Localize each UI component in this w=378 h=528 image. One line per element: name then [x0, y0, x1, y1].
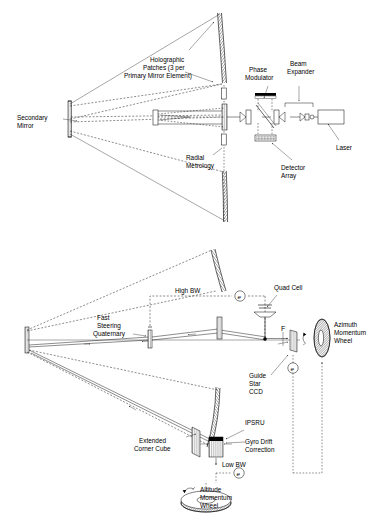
guide-star-label-line3: CCD — [249, 388, 263, 395]
secondary-mirror-label-line1: Secondary — [17, 114, 48, 122]
fast-steering-label-line3: Quaternary — [93, 330, 126, 338]
phase-modulator-label-line2: Modulator — [245, 74, 274, 81]
azimuth-momentum-wheel — [314, 319, 330, 357]
altitude-wheel-label-line2: Momentum — [200, 494, 232, 501]
high-bw-label: High BW — [175, 287, 201, 295]
high-bw-error-symbol: e — [237, 293, 241, 300]
detector-array — [255, 135, 276, 141]
quad-cell-label: Quad Cell — [274, 284, 302, 292]
azimuth-wheel-label-line3: Wheel — [334, 337, 352, 344]
extended-corner-label-line2: Corner Cube — [134, 445, 171, 452]
azimuth-wheel-label-line1: Azimuth — [334, 321, 358, 328]
optical-system-diagram: Secondary Mirror Holographic Patches (3 … — [0, 0, 378, 528]
fast-steering-quaternary-mirror — [148, 327, 152, 348]
holographic-patches-label-line2: Patches (3 per — [143, 64, 185, 72]
fast-steering-label-line1: Fast — [97, 314, 110, 321]
canvas-background — [0, 0, 378, 528]
beam-expander-label-line1: Beam — [290, 60, 307, 67]
holographic-patches-label-line3: Primary Mirror Element) — [124, 72, 192, 80]
extended-corner-cube — [192, 427, 200, 457]
guide-star-label-line1: Guide — [249, 372, 266, 379]
radial-metrology-label-line1: Radial — [186, 154, 204, 161]
guide-star-error-symbol: e — [290, 365, 294, 372]
focus-marker-label: F — [281, 325, 285, 332]
fast-steering-label-line2: Steering — [97, 322, 121, 330]
detector-array-label-line2: Array — [281, 172, 297, 180]
beam-expander-label-line2: Expander — [287, 68, 315, 76]
high-bw-error-junction: e — [235, 291, 245, 301]
guide-star-label-line2: Star — [249, 380, 262, 387]
radial-metrology-label-line2: Metrology — [186, 162, 215, 170]
laser-label: Laser — [336, 144, 353, 151]
phase-modulator-label-line1: Phase — [249, 66, 268, 73]
extended-corner-label-line1: Extended — [139, 437, 166, 444]
gyro-drift-label-line1: Gyro Drift — [245, 438, 273, 446]
ipsru-label: IPSRU — [245, 419, 265, 426]
low-bw-label: Low BW — [222, 461, 247, 468]
holographic-patches-label-line1: Holographic — [150, 56, 185, 64]
low-bw-error-symbol: e — [236, 470, 240, 477]
secondary-mirror — [68, 101, 72, 137]
gyro-drift-label-line2: Correction — [245, 446, 275, 453]
detector-array-label-line1: Detector — [281, 164, 306, 171]
low-bw-error-junction: e — [234, 468, 244, 478]
laser-source — [318, 110, 344, 124]
tertiary-fold-mirror — [217, 317, 222, 339]
altitude-wheel-label-line3: Wheel — [200, 502, 218, 509]
altitude-wheel-label-line1: Altitude — [200, 486, 222, 493]
azimuth-wheel-label-line2: Momentum — [334, 329, 366, 336]
secondary-mirror-label-line2: Mirror — [17, 122, 35, 129]
